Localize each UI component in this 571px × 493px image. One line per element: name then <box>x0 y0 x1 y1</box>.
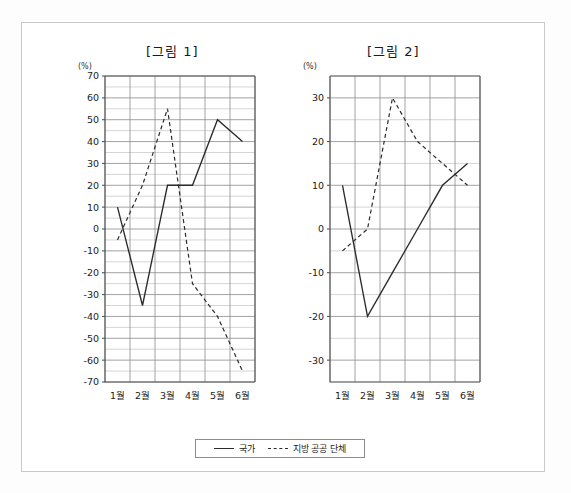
chart-2-xtick-label: 1월 <box>335 390 350 401</box>
chart-2-ytick-label: -30 <box>308 355 324 366</box>
legend-label-0: 국가 <box>239 442 255 455</box>
chart-2-ytick-label: 10 <box>312 180 324 191</box>
chart-2-ytick-label: -20 <box>308 311 324 322</box>
chart-2-ytick-label: 30 <box>312 92 324 103</box>
chart-2-xtick-label: 2월 <box>360 390 375 401</box>
chart-2-xtick-label: 5월 <box>435 390 450 401</box>
chart-2-xtick-label: 6월 <box>460 390 475 401</box>
legend-item-0: 국가 <box>214 442 255 455</box>
chart-2-ytick-label: -10 <box>308 267 324 278</box>
solid-line-swatch-icon <box>214 448 234 450</box>
chart-2-xtick-label: 3월 <box>385 390 400 401</box>
dashed-line-swatch-icon <box>268 448 288 450</box>
chart-2-xtick-label: 4월 <box>410 390 425 401</box>
chart-2-ytick-label: 0 <box>318 223 324 234</box>
legend-label-1: 지방 공공 단체 <box>293 442 347 455</box>
chart-2-plot: 3020100-10-20-301월2월3월4월5월6월 <box>0 0 571 493</box>
legend: 국가 지방 공공 단체 <box>195 439 365 458</box>
chart-2-ytick-label: 20 <box>312 136 324 147</box>
legend-item-1: 지방 공공 단체 <box>268 442 347 455</box>
